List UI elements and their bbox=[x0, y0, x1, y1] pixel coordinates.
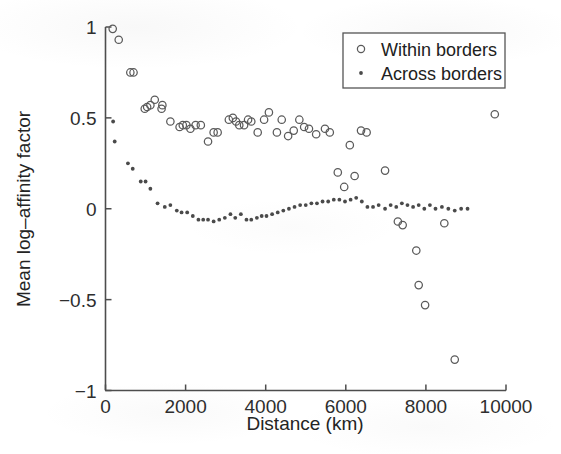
data-point-across-borders bbox=[434, 207, 438, 211]
data-point-across-borders bbox=[139, 180, 143, 184]
scatter-plot: 0200040006000800010000 −1−0.500.51 Dista… bbox=[0, 0, 561, 454]
data-point-within-borders bbox=[265, 109, 272, 116]
data-point-within-borders bbox=[413, 247, 420, 254]
data-point-within-borders bbox=[197, 121, 204, 128]
data-point-within-borders bbox=[341, 183, 348, 190]
data-point-across-borders bbox=[354, 196, 358, 200]
data-point-within-borders bbox=[296, 116, 303, 123]
data-point-within-borders bbox=[278, 116, 285, 123]
data-point-within-borders bbox=[260, 116, 267, 123]
legend-label-within-borders: Within borders bbox=[381, 40, 497, 60]
data-point-across-borders bbox=[343, 200, 347, 204]
data-point-across-borders bbox=[126, 161, 130, 165]
data-point-within-borders bbox=[254, 129, 261, 136]
data-point-across-borders bbox=[131, 167, 135, 171]
data-point-within-borders bbox=[441, 220, 448, 227]
data-point-across-borders bbox=[371, 205, 375, 209]
data-point-across-borders bbox=[113, 140, 117, 144]
data-point-across-borders bbox=[360, 200, 364, 204]
data-point-within-borders bbox=[204, 138, 211, 145]
data-point-across-borders bbox=[265, 214, 269, 218]
x-tick-label-10000: 10000 bbox=[480, 396, 533, 417]
data-point-across-borders bbox=[321, 200, 325, 204]
data-point-within-borders bbox=[451, 356, 458, 363]
data-point-across-borders bbox=[260, 214, 264, 218]
data-point-within-borders bbox=[115, 36, 122, 43]
data-point-across-borders bbox=[281, 209, 285, 213]
figure-canvas: 0200040006000800010000 −1−0.500.51 Dista… bbox=[0, 0, 561, 454]
data-point-within-borders bbox=[290, 127, 297, 134]
data-point-within-borders bbox=[312, 131, 319, 138]
x-tick-label-8000: 8000 bbox=[405, 396, 447, 417]
data-point-across-borders bbox=[191, 214, 195, 218]
data-point-across-borders bbox=[229, 212, 233, 216]
data-point-across-borders bbox=[337, 198, 341, 202]
data-point-across-borders bbox=[366, 205, 370, 209]
data-point-across-borders bbox=[400, 201, 404, 205]
y-axis-title: Mean log–affinity factor bbox=[13, 110, 34, 307]
data-point-across-borders bbox=[411, 205, 415, 209]
data-point-within-borders bbox=[167, 118, 174, 125]
data-point-across-borders bbox=[293, 205, 297, 209]
x-axis-ticks: 0200040006000800010000 bbox=[100, 385, 532, 417]
data-point-within-borders bbox=[109, 25, 116, 32]
data-point-across-borders bbox=[428, 203, 432, 207]
y-tick-label-0: 0 bbox=[86, 199, 97, 220]
data-point-across-borders bbox=[315, 201, 319, 205]
data-point-across-borders bbox=[377, 203, 381, 207]
data-point-within-borders bbox=[421, 301, 428, 308]
data-point-within-borders bbox=[351, 172, 358, 179]
data-point-across-borders bbox=[326, 200, 330, 204]
data-point-within-borders bbox=[334, 169, 341, 176]
series-across-borders bbox=[111, 120, 469, 224]
data-point-across-borders bbox=[459, 207, 463, 211]
data-point-across-borders bbox=[197, 218, 201, 222]
data-point-across-borders bbox=[249, 218, 253, 222]
x-tick-label-0: 0 bbox=[100, 396, 111, 417]
data-point-across-borders bbox=[349, 198, 353, 202]
x-axis-title: Distance (km) bbox=[246, 413, 363, 434]
y-tick-label-0.5: 0.5 bbox=[70, 108, 96, 129]
data-point-across-borders bbox=[217, 218, 221, 222]
y-axis-ticks: −1−0.500.51 bbox=[59, 17, 112, 402]
data-point-across-borders bbox=[304, 203, 308, 207]
legend[interactable]: Within borders Across borders bbox=[343, 33, 505, 88]
x-tick-label-2000: 2000 bbox=[164, 396, 206, 417]
data-point-across-borders bbox=[255, 216, 259, 220]
data-point-across-borders bbox=[422, 207, 426, 211]
data-point-across-borders bbox=[276, 210, 280, 214]
data-point-within-borders bbox=[346, 141, 353, 148]
data-point-within-borders bbox=[415, 281, 422, 288]
data-point-across-borders bbox=[417, 203, 421, 207]
data-point-across-borders bbox=[185, 210, 189, 214]
y-tick-label-1: 1 bbox=[86, 17, 97, 38]
data-point-across-borders bbox=[406, 203, 410, 207]
data-point-across-borders bbox=[394, 205, 398, 209]
data-point-across-borders bbox=[440, 205, 444, 209]
data-point-across-borders bbox=[453, 209, 457, 213]
legend-marker-dot-icon bbox=[359, 71, 363, 75]
data-point-across-borders bbox=[175, 209, 179, 213]
data-point-across-borders bbox=[466, 207, 470, 211]
data-point-within-borders bbox=[273, 129, 280, 136]
data-point-across-borders bbox=[239, 212, 243, 216]
data-point-across-borders bbox=[223, 216, 227, 220]
y-tick-label--0.5: −0.5 bbox=[59, 290, 97, 311]
data-point-across-borders bbox=[144, 180, 148, 184]
data-point-across-borders bbox=[206, 218, 210, 222]
data-point-across-borders bbox=[111, 120, 115, 124]
data-point-across-borders bbox=[389, 203, 393, 207]
legend-label-across-borders: Across borders bbox=[381, 64, 502, 84]
data-point-across-borders bbox=[163, 205, 167, 209]
data-point-across-borders bbox=[383, 207, 387, 211]
data-point-within-borders bbox=[491, 111, 498, 118]
data-point-across-borders bbox=[168, 203, 172, 207]
data-point-within-borders bbox=[305, 125, 312, 132]
data-point-across-borders bbox=[245, 218, 249, 222]
data-point-across-borders bbox=[212, 220, 216, 224]
data-point-across-borders bbox=[298, 203, 302, 207]
data-point-within-borders bbox=[381, 167, 388, 174]
y-tick-label--1: −1 bbox=[75, 381, 97, 402]
data-point-across-borders bbox=[156, 201, 160, 205]
data-point-across-borders bbox=[309, 201, 313, 205]
